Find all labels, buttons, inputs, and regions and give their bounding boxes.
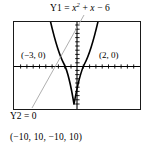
y1-equation-caption: Y1 = x2 + x − 6 bbox=[50, 2, 110, 14]
left-root-label: (−3, 0) bbox=[21, 50, 46, 61]
graphing-calculator-figure: Y1 = x2 + x − 6 bbox=[0, 0, 150, 150]
y1-constant-term: − 6 bbox=[95, 3, 110, 13]
window-settings-caption: (−10, 10, −10, 10) bbox=[10, 131, 82, 143]
y2-equation-caption: Y2 = 0 bbox=[10, 110, 36, 122]
right-root-label: (2, 0) bbox=[99, 50, 119, 61]
parabola-curve bbox=[49, 21, 100, 104]
y1-operator-plus: + bbox=[80, 3, 90, 13]
plot-area bbox=[13, 21, 141, 110]
y1-equation-prefix: Y1 = bbox=[50, 3, 72, 13]
